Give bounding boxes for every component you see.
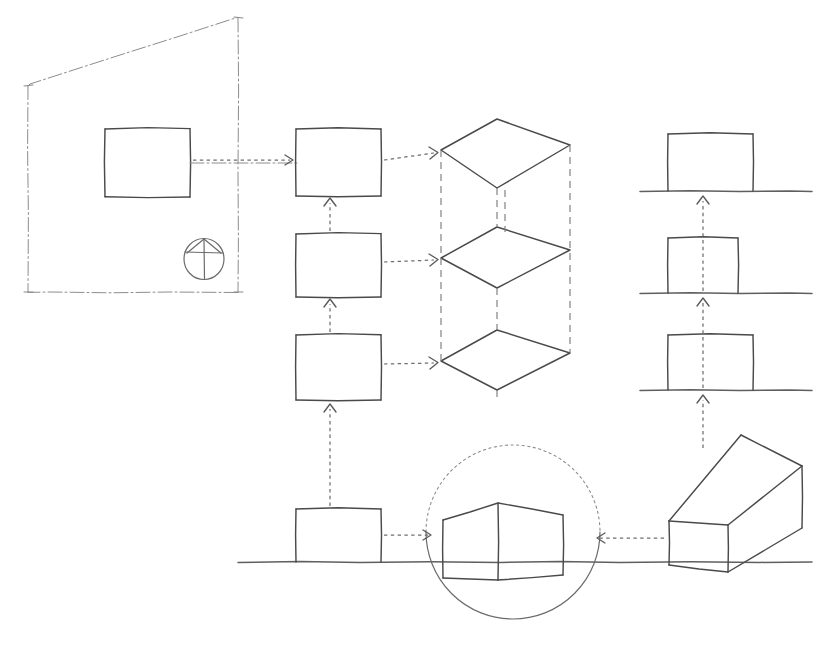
detail-circle: [426, 445, 600, 619]
drawing-frame: [24, 17, 243, 293]
iso-stack: [441, 119, 570, 400]
face-column-rect-1: [296, 128, 382, 197]
connector-column2-to-iso2: [384, 254, 438, 266]
hand-drawn-diagram: [0, 0, 825, 658]
two-face-block: [443, 503, 564, 580]
connector-column2-up: [324, 198, 336, 231]
elevation-row-3: [640, 334, 812, 391]
connector-column3-up: [324, 299, 336, 332]
source-rectangle: [104, 128, 190, 198]
base-ground-line: [238, 562, 812, 563]
connector-column1-to-iso1: [384, 147, 438, 160]
connector-baseline-up: [324, 404, 336, 506]
connector-elevation2-up: [697, 196, 709, 291]
sketch-canvas: [0, 0, 825, 658]
projection-symbol: [184, 239, 224, 280]
connector-elevation3-up: [697, 298, 709, 388]
face-column-rect-2: [296, 233, 382, 298]
connector-cube-to-detail: [597, 533, 664, 543]
face-column-rect-3: [296, 334, 382, 401]
connector-baseline-to-detail: [384, 530, 431, 540]
elevation-row-1: [640, 133, 812, 192]
connector-column3-to-iso3: [384, 357, 438, 369]
connector-cube-up: [697, 395, 709, 448]
baseline-rectangle: [296, 508, 382, 562]
iso-cube: [669, 435, 803, 572]
elevation-row-2: [640, 237, 812, 294]
